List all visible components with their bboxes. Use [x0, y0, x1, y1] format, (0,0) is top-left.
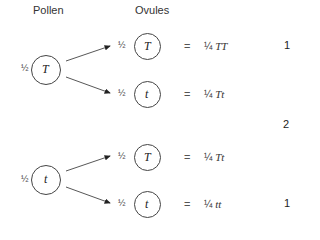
probability: ¼	[204, 199, 212, 210]
allele-label: T	[144, 150, 151, 165]
genotype: tt	[215, 198, 221, 210]
allele-label: t	[44, 172, 47, 187]
ratio-tt: 1	[284, 197, 290, 209]
genotype: Tt	[215, 151, 224, 163]
equals-sign: =	[184, 88, 190, 100]
equals-sign: =	[184, 40, 190, 52]
ratio-TT: 1	[284, 39, 290, 51]
offspring-result: ¼ TT	[204, 40, 227, 52]
offspring-result: ¼ Tt	[204, 88, 224, 100]
allele-label: T	[42, 62, 49, 77]
ovule-fraction: ½	[118, 40, 126, 50]
pollen-fraction: ½	[21, 63, 29, 73]
ovule-fraction: ½	[118, 88, 126, 98]
equals-sign: =	[184, 198, 190, 210]
ovule-fraction: ½	[118, 151, 126, 161]
probability: ¼	[204, 152, 212, 163]
equals-sign: =	[184, 151, 190, 163]
ovule-fraction: ½	[118, 198, 126, 208]
allele-label: T	[144, 39, 151, 54]
allele-label: t	[145, 197, 148, 212]
genotype: Tt	[215, 88, 224, 100]
allele-label: t	[145, 87, 148, 102]
offspring-result: ¼ Tt	[204, 151, 224, 163]
ratio-Tt: 2	[283, 118, 289, 130]
pollen-fraction: ½	[21, 174, 29, 184]
genotype: TT	[215, 40, 227, 52]
probability: ¼	[204, 41, 212, 52]
offspring-result: ¼ tt	[204, 198, 221, 210]
probability: ¼	[204, 89, 212, 100]
